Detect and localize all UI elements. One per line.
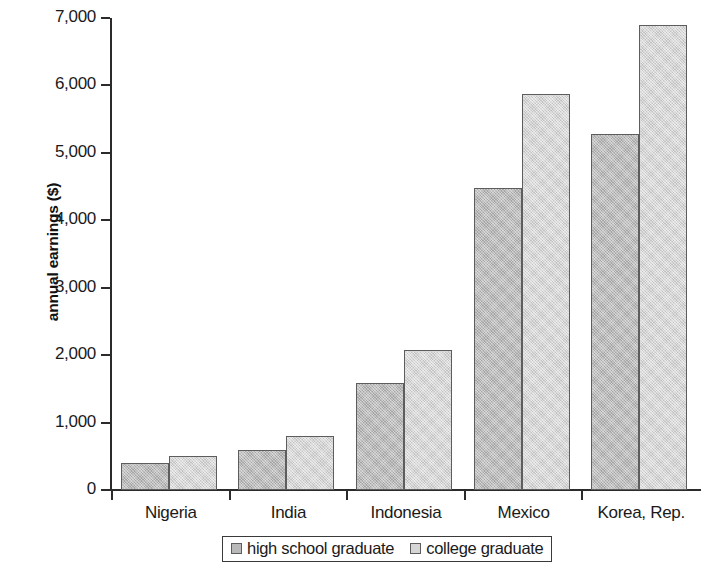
y-axis-tick [101,354,110,356]
y-axis-tick-label: 2,000 [14,344,96,364]
y-axis-tick [101,287,110,289]
chart-legend: high school graduate college graduate [222,536,552,562]
y-axis-tick [101,17,110,19]
bar-mexico-college-graduate [522,94,570,490]
bar-chart: annual earnings ($) 01,0002,0003,0004,00… [0,0,706,575]
bar-nigeria-high-school-graduate [121,463,169,490]
bar-indonesia-college-graduate [404,350,452,490]
legend-item-high-school-graduate: high school graduate [231,540,394,557]
y-axis-tick-label: 0 [14,479,96,499]
y-axis-tick-label: 6,000 [14,74,96,94]
bar-nigeria-college-graduate [169,456,217,490]
y-axis-tick [101,489,110,491]
y-axis-tick [101,152,110,154]
bar-korea-rep-high-school-graduate [591,134,639,490]
x-axis-tick [229,491,231,500]
y-axis-tick-label: 4,000 [14,209,96,229]
legend-item-college-graduate: college graduate [410,540,543,557]
y-axis-tick-label: 1,000 [14,412,96,432]
bar-indonesia-high-school-graduate [356,383,404,490]
x-axis-tick [581,491,583,500]
x-axis-tick [346,491,348,500]
x-axis-tick [111,491,113,500]
y-axis-line [110,18,112,491]
x-axis-category-label: Korea, Rep. [572,503,706,523]
bar-mexico-high-school-graduate [474,188,522,490]
legend-label-college-graduate: college graduate [426,540,543,557]
y-axis-tick-label: 7,000 [14,7,96,27]
y-axis-tick [101,219,110,221]
legend-swatch-icon-high-school-graduate [231,543,242,554]
bar-india-college-graduate [286,436,334,490]
bar-korea-rep-college-graduate [639,25,687,490]
x-axis-tick [464,491,466,500]
bar-india-high-school-graduate [238,450,286,490]
y-axis-tick-label: 5,000 [14,142,96,162]
y-axis-tick [101,84,110,86]
legend-swatch-icon-college-graduate [410,543,421,554]
y-axis-tick [101,422,110,424]
y-axis-tick-label: 3,000 [14,277,96,297]
legend-label-high-school-graduate: high school graduate [247,540,394,557]
